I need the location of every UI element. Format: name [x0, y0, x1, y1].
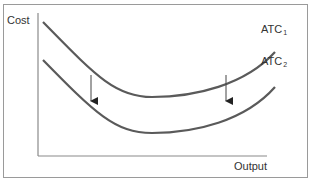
atc2-label-main: ATC: [261, 55, 282, 67]
atc1-label-main: ATC: [261, 23, 282, 35]
atc1-curve: [43, 22, 275, 97]
atc2-label: ATC2: [261, 56, 287, 68]
atc1-label: ATC1: [261, 24, 287, 36]
y-axis-label: Cost: [7, 15, 30, 26]
atc2-label-sub: 2: [283, 61, 287, 68]
x-axis-label: Output: [234, 161, 267, 172]
atc1-label-sub: 1: [283, 29, 287, 36]
